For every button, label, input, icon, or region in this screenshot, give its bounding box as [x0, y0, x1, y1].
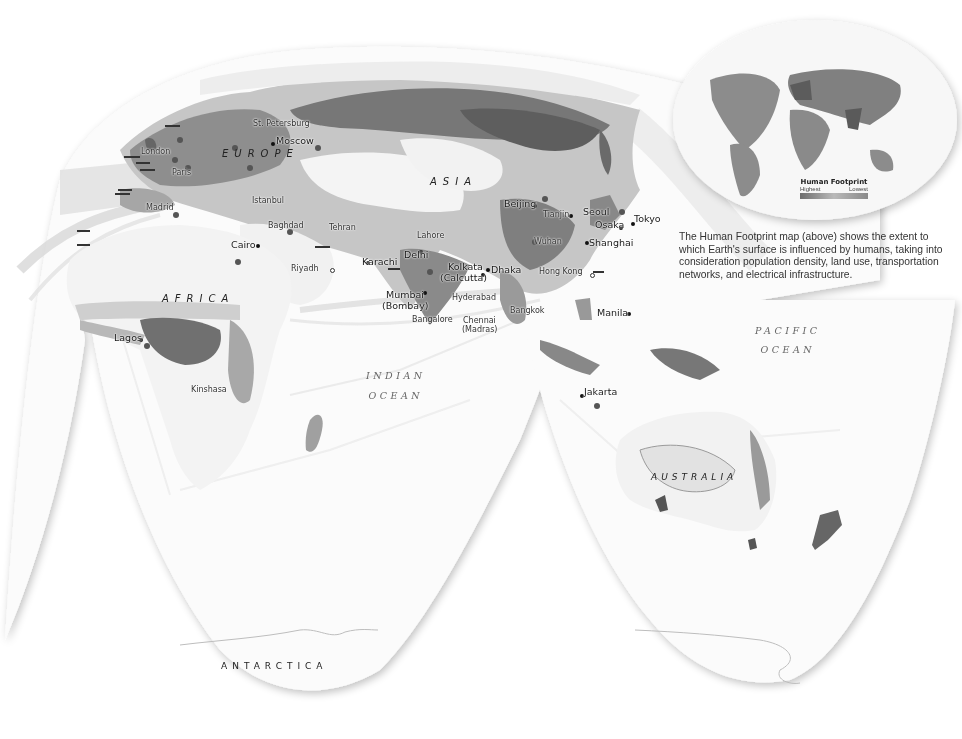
- city-label-lahore: Lahore: [417, 232, 444, 240]
- city-label-istanbul: Istanbul: [252, 197, 284, 205]
- city-label-kinshasa: Kinshasa: [191, 386, 227, 394]
- city-marker: [256, 244, 260, 248]
- city-label-jakarta: Jakarta: [584, 387, 617, 397]
- city-label-st-petersburg: St. Petersburg: [253, 120, 310, 128]
- city-label-hyderabad: Hyderabad: [452, 294, 496, 302]
- city-label-wuhan: Wuhan: [534, 238, 562, 246]
- city-label-mumbai-alt: (Bombay): [382, 301, 428, 311]
- city-label-london: London: [141, 148, 170, 156]
- region-label-australia: AUSTRALIA: [651, 472, 737, 482]
- city-marker: [569, 214, 573, 218]
- city-marker: [271, 142, 275, 146]
- city-label-baghdad: Baghdad: [268, 222, 304, 230]
- inset-legend: Human Footprint Highest Lowest: [800, 178, 868, 199]
- city-label-madrid: Madrid: [146, 204, 173, 212]
- ocean-label-indian: INDIAN OCEAN: [366, 370, 426, 401]
- region-label-africa: AFRICA: [162, 293, 234, 304]
- legend-gradient-bar: [800, 193, 868, 199]
- city-label-tokyo: Tokyo: [634, 214, 661, 224]
- city-label-beijing: Beijing: [504, 199, 536, 209]
- city-label-tianjin: Tianjin: [543, 211, 569, 219]
- map-graphic: [0, 0, 962, 739]
- city-marker: [590, 273, 595, 278]
- city-marker: [330, 268, 335, 273]
- city-label-moscow: Moscow: [276, 136, 314, 146]
- city-label-manila: Manila: [597, 308, 628, 318]
- city-label-osaka: Osaka: [595, 220, 624, 230]
- ocean-label-pacific: PACIFIC OCEAN: [755, 325, 821, 355]
- city-label-paris: Paris: [172, 169, 191, 177]
- region-label-europe: EUROPE: [222, 148, 299, 159]
- legend-label-lowest: Lowest: [849, 186, 868, 192]
- ocean-label-line: INDIAN: [366, 370, 426, 381]
- city-label-bangkok: Bangkok: [510, 307, 544, 315]
- legend-title: Human Footprint: [800, 178, 868, 186]
- city-label-chennai-alt: (Madras): [462, 326, 497, 334]
- city-label-kolkata: Kolkata: [448, 262, 483, 272]
- city-label-seoul: Seoul: [583, 207, 609, 217]
- legend-labels: Highest Lowest: [800, 186, 868, 192]
- region-label-asia: ASIA: [430, 176, 477, 187]
- city-label-dhaka: Dhaka: [491, 265, 521, 275]
- inset-caption: The Human Footprint map (above) shows th…: [679, 231, 949, 281]
- ocean-label-line: OCEAN: [366, 390, 426, 401]
- city-label-hong-kong: Hong Kong: [539, 268, 583, 276]
- city-label-mumbai: Mumbai: [386, 290, 424, 300]
- city-label-kolkata-alt: (Calcutta): [440, 273, 487, 283]
- ocean-label-line: OCEAN: [755, 344, 821, 355]
- city-label-tehran: Tehran: [329, 224, 356, 232]
- human-footprint-map: EUROPE ASIA AFRICA AUSTRALIA ANTARCTICA …: [0, 0, 962, 739]
- city-label-riyadh: Riyadh: [291, 265, 319, 273]
- region-label-antarctica: ANTARCTICA: [221, 661, 328, 671]
- city-label-shanghai: Shanghai: [589, 238, 633, 248]
- city-label-cairo: Cairo: [231, 240, 256, 250]
- city-label-bangalore: Bangalore: [412, 316, 453, 324]
- city-label-lagos: Lagos: [114, 333, 142, 343]
- city-label-karachi: Karachi: [362, 257, 398, 267]
- ocean-label-line: PACIFIC: [755, 325, 821, 336]
- legend-label-highest: Highest: [800, 186, 820, 192]
- city-label-delhi: Delhi: [404, 250, 428, 260]
